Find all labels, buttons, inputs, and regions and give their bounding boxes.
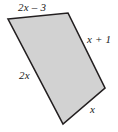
quadrilateral-shape	[0, 0, 118, 132]
side-label-upper-right: x + 1	[87, 34, 111, 45]
side-label-lower-right: x	[90, 104, 95, 115]
side-label-top: 2x – 3	[18, 2, 46, 13]
side-label-left: 2x	[19, 70, 30, 81]
geometry-figure: 2x – 3 x + 1 2x x	[0, 0, 118, 132]
